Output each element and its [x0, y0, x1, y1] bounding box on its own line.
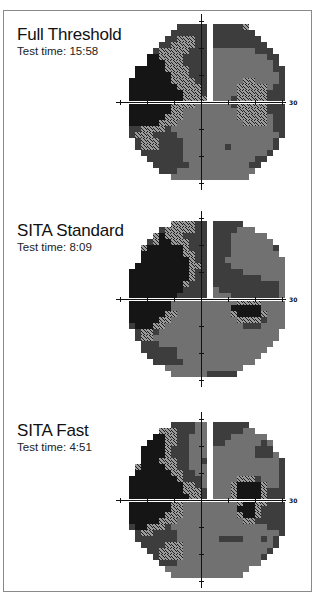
x-tick [282, 100, 283, 105]
vertical-axis [201, 14, 202, 190]
x-tick [174, 100, 175, 105]
axis-label-30: 30 [289, 498, 297, 504]
y-tick [199, 75, 204, 76]
x-tick [282, 297, 283, 302]
x-tick [120, 100, 121, 105]
test-time-label: Test time: 4:51 [17, 441, 92, 454]
y-tick [199, 156, 204, 157]
y-tick [199, 245, 204, 246]
x-tick [147, 498, 148, 503]
vertical-axis [201, 412, 202, 588]
y-tick [199, 129, 204, 130]
y-tick [199, 380, 204, 381]
visual-field-plot: 30 [117, 18, 285, 186]
x-tick [255, 100, 256, 105]
field-cell [279, 377, 285, 383]
panel-title: SITA Fast [17, 422, 89, 440]
y-tick [199, 326, 204, 327]
y-tick [199, 419, 204, 420]
y-tick [199, 21, 204, 22]
y-tick [199, 272, 204, 273]
y-tick [199, 473, 204, 474]
panel-sita-fast: SITA Fast Test time: 4:51 30 [0, 398, 319, 594]
visual-field-plot: 30 [117, 416, 285, 584]
x-tick [147, 297, 148, 302]
y-tick [199, 554, 204, 555]
axis-label-30: 30 [289, 100, 297, 106]
test-time-label: Test time: 15:58 [17, 45, 98, 58]
y-tick [199, 353, 204, 354]
x-tick [255, 297, 256, 302]
y-tick [199, 581, 204, 582]
x-tick [228, 297, 229, 302]
x-tick [120, 297, 121, 302]
x-tick [282, 498, 283, 503]
panel-full-threshold: Full Threshold Test time: 15:58 30 [0, 0, 319, 196]
x-tick [228, 100, 229, 105]
x-tick [228, 498, 229, 503]
field-cell [279, 180, 285, 186]
x-tick [147, 100, 148, 105]
y-tick [199, 527, 204, 528]
x-tick [174, 498, 175, 503]
panel-sita-standard: SITA Standard Test time: 8:09 30 [0, 197, 319, 393]
visual-field-plot: 30 [117, 215, 285, 383]
test-time-label: Test time: 8:09 [17, 241, 92, 254]
y-tick [199, 183, 204, 184]
y-tick [199, 48, 204, 49]
x-tick [255, 498, 256, 503]
panel-title: SITA Standard [17, 222, 124, 240]
x-tick [120, 498, 121, 503]
vertical-axis [201, 211, 202, 387]
y-tick [199, 218, 204, 219]
panel-title: Full Threshold [17, 26, 122, 44]
y-tick [199, 446, 204, 447]
x-tick [174, 297, 175, 302]
field-cell [279, 578, 285, 584]
axis-label-30: 30 [289, 297, 297, 303]
